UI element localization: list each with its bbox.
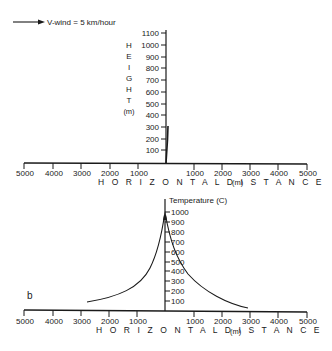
panel-a-x-axis	[24, 163, 307, 164]
y-tick-label: 400	[171, 267, 185, 276]
panel-a-x-axis-units: (m)	[232, 178, 244, 187]
y-tick-label: 300	[171, 277, 185, 286]
y-tick-label: 900	[146, 53, 160, 62]
panel-b-y-axis-title: Temperature (C)	[169, 196, 228, 205]
y-tick-label: 1100	[142, 29, 160, 38]
y-title-units: (m)	[123, 107, 135, 116]
y-tick-label: 500	[146, 100, 160, 109]
y-tick-label: 900	[171, 218, 185, 227]
y-tick-label: 300	[146, 123, 160, 132]
y-tick-label: 1000	[141, 41, 159, 50]
panel-a-x-axis-title: H O R I Z O N T A L D I S T A N C E	[98, 177, 324, 187]
y-title-letter: T	[127, 96, 132, 105]
panel-b-label: b	[27, 290, 33, 301]
y-tick-label: 600	[171, 248, 185, 257]
y-tick-label: 100	[146, 146, 160, 155]
y-title-letter: G	[126, 74, 132, 83]
temperature-curve-left	[87, 215, 165, 302]
y-tick-label: 700	[146, 76, 160, 85]
y-title-letter: E	[126, 52, 131, 61]
x-tick-label: 5000	[16, 169, 34, 178]
wind-legend-label: V-wind = 5 km/hour	[47, 18, 116, 27]
y-tick-label: 1000	[171, 208, 189, 217]
arrowhead-icon	[38, 20, 45, 25]
panel-b-x-axis-units: (m)	[230, 327, 242, 336]
x-tick-label: 3000	[73, 169, 91, 178]
y-tick-label: 100	[171, 297, 185, 306]
x-tick-label: 4000	[45, 169, 63, 178]
panel-a-y-tick-labels: 1100 1000 900 800 700 600 500 400 300 20…	[141, 29, 159, 155]
diagram-canvas: V-wind = 5 km/hour 1100 1000 900 800 700…	[0, 0, 332, 351]
y-tick-label: 200	[146, 135, 160, 144]
y-tick-label: 600	[146, 88, 160, 97]
y-tick-label: 800	[146, 64, 160, 73]
x-tick-label: 4000	[45, 317, 63, 326]
panel-b: Temperature (C) 1000 900 800 700 600 500…	[16, 196, 322, 336]
panel-a: 1100 1000 900 800 700 600 500 400 300 20…	[16, 29, 324, 187]
y-title-letter: I	[128, 63, 130, 72]
panel-b-y-tick-labels: 1000 900 800 700 600 500 400 300 200 100	[171, 208, 189, 306]
panel-a-y-ticks	[161, 33, 166, 150]
y-tick-label: 800	[171, 228, 185, 237]
x-tick-label: 5000	[16, 317, 34, 326]
y-title-letter: H	[126, 41, 132, 50]
panel-a-y-axis-title: H E I G H T (m)	[123, 41, 135, 116]
y-title-letter: H	[126, 85, 132, 94]
y-tick-label: 400	[146, 111, 160, 120]
wind-legend: V-wind = 5 km/hour	[13, 18, 116, 27]
y-tick-label: 200	[171, 287, 185, 296]
x-tick-label: 3000	[73, 317, 91, 326]
panel-b-x-axis-title: H O R I Z O N T A L D I S T A N C E	[96, 325, 322, 335]
